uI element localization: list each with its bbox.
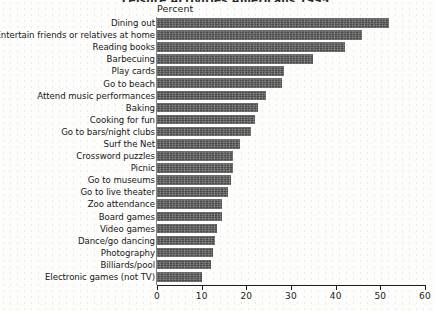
bar-chart: Leisure Activities Americans 1995 Percen…	[0, 0, 435, 311]
bar	[157, 103, 258, 113]
category-label: Baking	[126, 103, 155, 112]
bar	[157, 115, 255, 125]
category-label: Reading books	[93, 43, 155, 52]
category-label: Dance/go dancing	[78, 236, 155, 245]
x-tick	[291, 285, 292, 290]
bar-row: Reading books	[157, 41, 425, 53]
bar-row: Go to live theater	[157, 186, 425, 198]
category-label: Attend music performances	[37, 91, 155, 100]
bar	[157, 151, 233, 161]
category-label: Electronic games (not TV)	[45, 273, 155, 282]
category-label: Video games	[100, 224, 155, 233]
category-label: Cooking for fun	[90, 115, 155, 124]
bar	[157, 30, 362, 40]
x-tick	[380, 285, 381, 290]
bar	[157, 91, 266, 101]
x-tick-label: 50	[374, 291, 386, 301]
bar	[157, 78, 282, 88]
category-label: Go to museums	[88, 176, 155, 185]
bar	[157, 260, 211, 270]
category-label: Photography	[101, 248, 155, 257]
category-label: Billiards/pool	[100, 260, 155, 269]
bar-row: Attend music performances	[157, 90, 425, 102]
bar	[157, 175, 231, 185]
x-tick	[425, 285, 426, 290]
bar-row: Billiards/pool	[157, 259, 425, 271]
bar	[157, 248, 213, 258]
category-label: Surf the Net	[103, 139, 155, 148]
bar-row: Dining out	[157, 17, 425, 29]
category-label: Go to beach	[103, 79, 155, 88]
bar-row: Board games	[157, 211, 425, 223]
category-label: Zoo attendance	[88, 200, 155, 209]
bar-row: Go to museums	[157, 174, 425, 186]
category-label: Picnic	[131, 164, 155, 173]
bar	[157, 163, 233, 173]
bar-row: Picnic	[157, 162, 425, 174]
x-tick-label: 40	[330, 291, 342, 301]
category-label: Barbecuing	[107, 55, 155, 64]
bar-row: Video games	[157, 223, 425, 235]
bar-row: Go to beach	[157, 77, 425, 89]
bar	[157, 54, 313, 64]
category-label: Dining out	[111, 19, 155, 28]
x-tick	[202, 285, 203, 290]
bar	[157, 212, 222, 222]
bar	[157, 272, 202, 282]
x-axis-title: Percent	[157, 3, 193, 14]
bar-row: Go to bars/night clubs	[157, 126, 425, 138]
bar-row: Zoo attendance	[157, 198, 425, 210]
x-tick-label: 0	[154, 291, 160, 301]
x-tick-label: 10	[196, 291, 208, 301]
x-tick	[157, 285, 158, 290]
bar-row: Baking	[157, 102, 425, 114]
bar-row: Crossword puzzles	[157, 150, 425, 162]
category-label: Board games	[99, 212, 155, 221]
plot-area: Dining outEntertain friends or relatives…	[157, 17, 425, 285]
x-tick-label: 60	[419, 291, 431, 301]
category-label: Crossword puzzles	[76, 152, 155, 161]
category-label: Go to bars/night clubs	[61, 127, 155, 136]
bar	[157, 42, 345, 52]
bar-rows: Dining outEntertain friends or relatives…	[157, 17, 425, 283]
bar-row: Dance/go dancing	[157, 235, 425, 247]
bar	[157, 224, 217, 234]
x-tick	[246, 285, 247, 290]
bar	[157, 66, 284, 76]
x-tick-label: 20	[240, 291, 252, 301]
bar-row: Play cards	[157, 65, 425, 77]
category-label: Entertain friends or relatives at home	[0, 31, 155, 40]
bar	[157, 236, 215, 246]
bar-row: Entertain friends or relatives at home	[157, 29, 425, 41]
chart-title-cropped: Leisure Activities Americans 1995	[118, 0, 333, 2]
x-tick	[336, 285, 337, 290]
bar	[157, 127, 251, 137]
bar	[157, 139, 240, 149]
bar-row: Surf the Net	[157, 138, 425, 150]
bar-row: Cooking for fun	[157, 114, 425, 126]
category-label: Play cards	[112, 67, 155, 76]
bar	[157, 187, 228, 197]
bar-row: Electronic games (not TV)	[157, 271, 425, 283]
x-tick-label: 30	[285, 291, 297, 301]
bar	[157, 18, 389, 28]
bar	[157, 199, 222, 209]
bar-row: Photography	[157, 247, 425, 259]
bar-row: Barbecuing	[157, 53, 425, 65]
category-label: Go to live theater	[80, 188, 155, 197]
